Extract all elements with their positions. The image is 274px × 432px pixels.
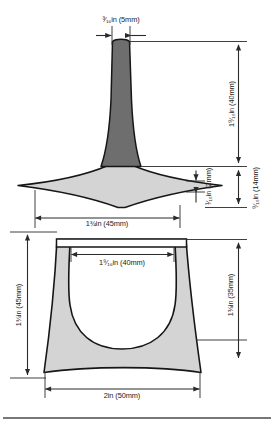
technical-drawing-sheet: ³⁄₁₆in (5mm) 1⁹⁄₁₆in (40mm) ¹⁄₁₆in (2mm)… <box>0 0 274 432</box>
dimension-label-foot-width: 1¾in (45mm) <box>86 219 128 228</box>
dimension-label-opening-width: 1⁹⁄₁₆in (40mm) <box>99 258 145 267</box>
dimension-label-stem-width: ³⁄₁₆in (5mm) <box>102 15 139 24</box>
dimension-label-stem-height: 1⁹⁄₁₆in (40mm) <box>227 81 236 127</box>
dimension-label-foot-edge-thickness: ¹⁄₁₆in (2mm) <box>204 168 213 205</box>
dimension-label-body-height-left: 1¾in (45mm) <box>14 284 23 326</box>
dimension-label-foot-height: ⁹⁄₁₆in (14mm) <box>251 167 260 209</box>
dimension-label-body-height-right: 1⅜in (35mm) <box>226 274 235 316</box>
dimension-label-base-width: 2in (50mm) <box>104 391 140 400</box>
top-rail <box>57 239 187 247</box>
